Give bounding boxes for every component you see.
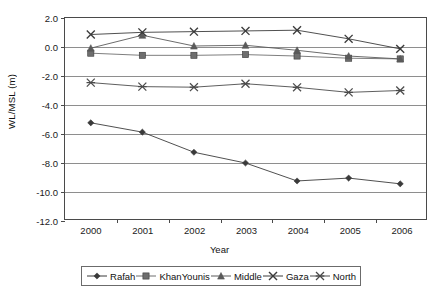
series-rafah: [88, 120, 404, 187]
data-point-diamond: [139, 129, 145, 135]
data-point-square: [139, 52, 145, 58]
legend-label: Rafah: [110, 271, 135, 282]
data-point-asterisk: [344, 88, 353, 96]
legend-item-north[interactable]: North: [309, 270, 356, 282]
x-axis-tick-mark: [169, 219, 170, 223]
x-axis-tick-label: 2003: [236, 225, 257, 236]
legend-marker-diamond-icon: [86, 270, 108, 282]
data-point-square: [143, 273, 149, 279]
y-axis-tick-mark: [61, 221, 65, 222]
x-axis-tick-label: 2000: [80, 225, 101, 236]
x-axis-tick-mark: [376, 219, 377, 223]
x-axis-tick-label: 2005: [340, 225, 361, 236]
y-axis-tick-label: -10.0: [36, 187, 58, 198]
legend-marker-square-icon: [135, 270, 157, 282]
legend-item-gaza[interactable]: Gaza: [262, 270, 309, 282]
x-axis-tick-label: 2001: [132, 225, 153, 236]
data-point-asterisk: [190, 83, 199, 91]
legend-item-middle[interactable]: Middle: [210, 270, 262, 282]
x-axis-tick-label: 2002: [184, 225, 205, 236]
x-axis-tick-mark: [117, 219, 118, 223]
x-axis-tick-mark: [221, 219, 222, 223]
legend-marker-triangle-icon: [210, 270, 232, 282]
legend-marker-cross-icon: [262, 270, 284, 282]
legend-label: KhanYounis: [159, 271, 209, 282]
data-point-diamond: [88, 120, 94, 126]
x-axis-tick-label: 2006: [391, 225, 412, 236]
y-axis-tick-label: 2.0: [45, 13, 58, 24]
y-axis-tick-label: -6.0: [42, 129, 58, 140]
series-north: [87, 79, 405, 97]
y-axis-tick-label: 0.0: [45, 42, 58, 53]
series-gaza: [87, 26, 404, 53]
data-point-cross: [396, 45, 404, 53]
data-point-asterisk: [293, 83, 302, 91]
data-point-asterisk: [241, 80, 250, 88]
legend-marker-asterisk-icon: [309, 270, 331, 282]
y-axis-tick-label: -2.0: [42, 71, 58, 82]
chart-legend: RafahKhanYounisMiddleGazaNorth: [81, 266, 361, 286]
plot-area: 2.00.0-2.0-4.0-6.0-8.0-10.0-12.0 2000200…: [64, 17, 427, 220]
legend-label: Middle: [234, 271, 262, 282]
data-point-diamond: [294, 178, 300, 184]
legend-label: Gaza: [286, 271, 309, 282]
data-point-diamond: [397, 181, 403, 187]
series-layer: [65, 18, 426, 219]
data-point-square: [242, 52, 248, 58]
data-point-square: [191, 52, 197, 58]
y-axis-tick-label: -12.0: [36, 216, 58, 227]
data-point-diamond: [346, 175, 352, 181]
data-point-asterisk: [396, 87, 405, 95]
legend-item-khanyounis[interactable]: KhanYounis: [135, 270, 209, 282]
data-point-asterisk: [138, 83, 147, 91]
y-axis-tick-label: -8.0: [42, 158, 58, 169]
legend-label: North: [333, 271, 356, 282]
data-point-diamond: [94, 273, 100, 279]
x-axis-tick-mark: [272, 219, 273, 223]
y-axis-title: WL/MSL (m): [6, 74, 17, 129]
y-axis-tick-label: -4.0: [42, 100, 58, 111]
x-axis-tick-mark: [324, 219, 325, 223]
x-axis-title: Year: [0, 244, 439, 255]
data-point-cross: [345, 35, 353, 43]
x-axis-tick-label: 2004: [288, 225, 309, 236]
data-point-asterisk: [315, 272, 324, 280]
legend-item-rafah[interactable]: Rafah: [86, 270, 135, 282]
data-point-asterisk: [87, 79, 96, 87]
data-point-diamond: [242, 160, 248, 166]
data-point-diamond: [191, 149, 197, 155]
data-point-square: [294, 53, 300, 59]
chart-figure: WL/MSL (m) 2.00.0-2.0-4.0-6.0-8.0-10.0-1…: [0, 0, 439, 299]
